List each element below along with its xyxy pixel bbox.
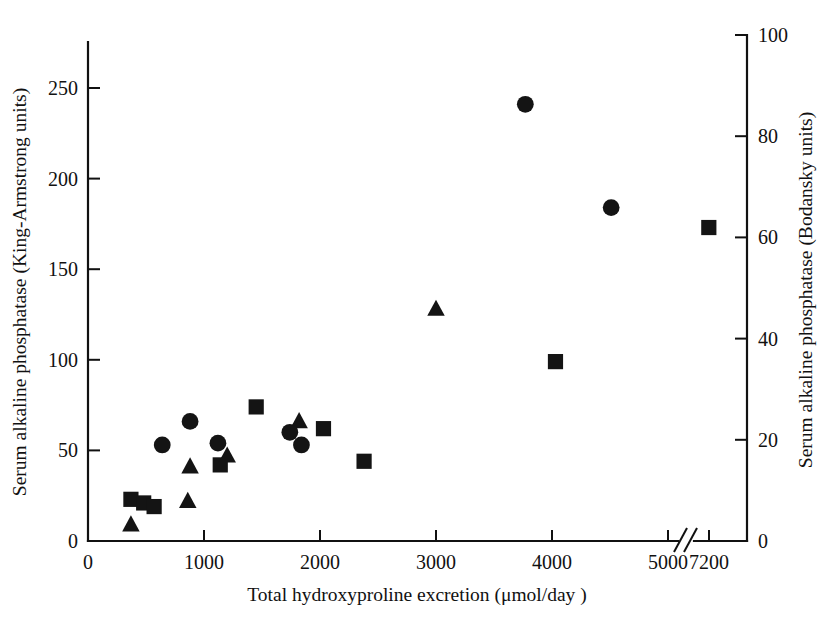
y-tick-label-left-150: 150 <box>48 258 78 280</box>
data-point-square <box>548 354 563 369</box>
figure-container: 050100150200250 010002000300040005000720… <box>0 0 830 627</box>
y-tick-label-left-250: 250 <box>48 77 78 99</box>
y-axis-right-ticks: 020406080100 <box>735 24 788 552</box>
x-axis-ticks: 0100020003000400050007200 <box>83 530 729 573</box>
y-tick-label-left-100: 100 <box>48 349 78 371</box>
x-axis: 0100020003000400050007200 <box>83 528 747 573</box>
data-point-circle <box>293 437 310 454</box>
y-axis-left: 050100150200250 <box>48 42 100 552</box>
x-tick-label-0: 0 <box>83 551 93 573</box>
data-point-square <box>147 499 162 514</box>
x-tick-label-7200: 7200 <box>689 551 729 573</box>
x-tick-label-3000: 3000 <box>416 551 456 573</box>
data-point-triangle <box>181 457 199 473</box>
data-point-circle <box>210 435 227 452</box>
x-axis-title: Total hydroxyproline excretion (μmol/day… <box>247 584 586 606</box>
x-tick-label-5000: 5000 <box>648 551 688 573</box>
data-point-circle <box>154 437 171 454</box>
data-point-square <box>356 454 371 469</box>
data-markers <box>122 96 716 532</box>
data-point-circle <box>603 199 620 216</box>
x-tick-label-4000: 4000 <box>532 551 572 573</box>
data-point-circle <box>517 96 534 113</box>
y-axis-title-right: Serum alkaline phosphatase (Bodansky uni… <box>795 112 817 468</box>
data-point-square <box>701 220 716 235</box>
x-tick-label-2000: 2000 <box>300 551 340 573</box>
y-tick-label-left-50: 50 <box>58 439 78 461</box>
y-tick-label-right-80: 80 <box>758 125 778 147</box>
y-tick-label-right-100: 100 <box>758 24 788 46</box>
y-tick-label-right-0: 0 <box>758 530 768 552</box>
y-tick-label-left-200: 200 <box>48 168 78 190</box>
data-point-square <box>249 399 264 414</box>
data-point-triangle <box>122 515 140 531</box>
data-point-triangle <box>179 492 197 508</box>
data-point-square <box>316 421 331 436</box>
y-axis-left-ticks: 050100150200250 <box>48 77 100 552</box>
y-tick-label-left-0: 0 <box>68 530 78 552</box>
y-axis-right: 020406080100 <box>735 24 788 552</box>
data-point-circle <box>182 413 199 430</box>
scatter-plot: 050100150200250 010002000300040005000720… <box>0 0 830 627</box>
data-point-triangle <box>290 412 308 428</box>
x-tick-label-1000: 1000 <box>184 551 224 573</box>
y-tick-label-right-20: 20 <box>758 429 778 451</box>
data-point-triangle <box>427 300 445 316</box>
y-tick-label-right-60: 60 <box>758 226 778 248</box>
y-axis-title-left: Serum alkaline phosphatase (King-Armstro… <box>9 88 31 496</box>
y-tick-label-right-40: 40 <box>758 328 778 350</box>
